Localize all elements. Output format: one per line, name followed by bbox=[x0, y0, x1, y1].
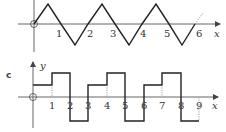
part-label: c bbox=[6, 70, 11, 80]
tick-3: 3 bbox=[85, 100, 91, 111]
y-axis-label: y bbox=[39, 60, 46, 71]
tick-3: 3 bbox=[110, 28, 116, 39]
tick-6: 6 bbox=[141, 100, 147, 111]
x-axis-label: x bbox=[214, 28, 220, 39]
tick-8: 8 bbox=[178, 100, 184, 111]
tick-4: 4 bbox=[140, 28, 146, 39]
tick-1: 1 bbox=[56, 28, 62, 39]
tick-7: 7 bbox=[159, 100, 165, 111]
graphs: 1 2 3 4 5 6 x c y 1 2 3 4 5 6 7 8 9 x bbox=[0, 0, 226, 132]
tick-6: 6 bbox=[196, 28, 202, 39]
tick-4: 4 bbox=[104, 100, 110, 111]
tick-9: 9 bbox=[196, 100, 202, 111]
tick-5: 5 bbox=[122, 100, 128, 111]
x-axis-label: x bbox=[212, 100, 218, 111]
step-function-graph: c y 1 2 3 4 5 6 7 8 9 x bbox=[6, 60, 218, 128]
tick-1: 1 bbox=[49, 100, 55, 111]
continuation-dots bbox=[195, 13, 203, 24]
tick-2: 2 bbox=[67, 100, 73, 111]
tick-2: 2 bbox=[87, 28, 93, 39]
triangle-wave-graph: 1 2 3 4 5 6 x bbox=[18, 0, 220, 52]
tick-5: 5 bbox=[164, 28, 170, 39]
